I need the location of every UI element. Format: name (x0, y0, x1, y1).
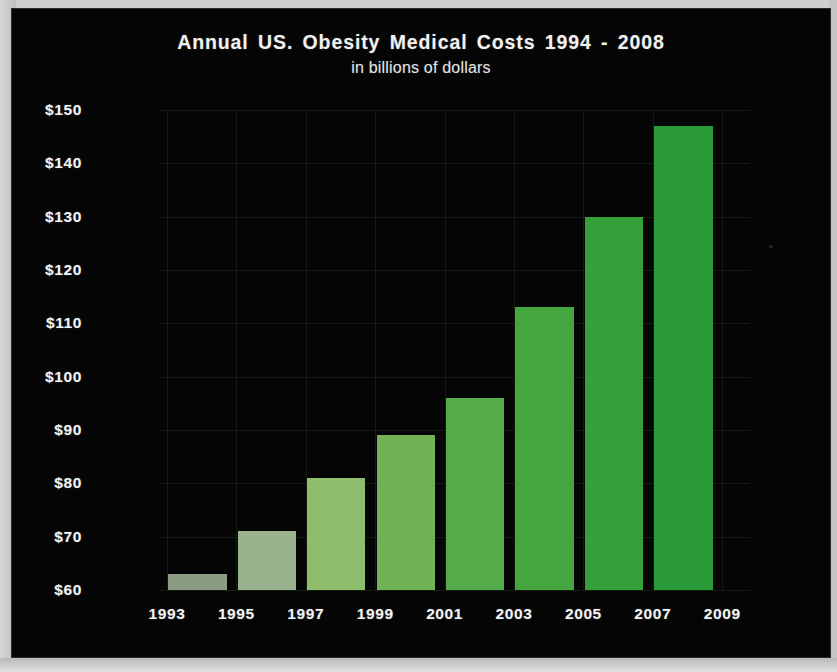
y-axis-tick-label: $150 (12, 101, 82, 119)
bar (238, 531, 296, 590)
plot-area (160, 110, 750, 590)
x-axis-tick-label: 1999 (357, 605, 394, 623)
y-axis-tick-label: $130 (12, 208, 82, 226)
scan-artifact-speck (769, 245, 773, 248)
x-axis: 199319951997199920012003200520072009 (160, 605, 750, 633)
x-axis-tick-label: 2001 (426, 605, 463, 623)
bar (585, 217, 643, 590)
gridline-horizontal (160, 590, 750, 591)
y-axis-tick-label: $70 (12, 528, 82, 546)
bar-chart-figure: Annual US. Obesity Medical Costs 1994 - … (12, 9, 830, 657)
x-axis-tick-label: 1993 (148, 605, 185, 623)
bar (515, 307, 573, 590)
bar (377, 435, 435, 590)
gridline-vertical (722, 110, 723, 590)
bar (446, 398, 504, 590)
chart-subtitle: in billions of dollars (12, 59, 830, 77)
y-axis-tick-label: $60 (12, 581, 82, 599)
bar (168, 574, 226, 590)
y-axis-tick-label: $80 (12, 474, 82, 492)
bar (307, 478, 365, 590)
scanned-page: Annual US. Obesity Medical Costs 1994 - … (0, 0, 837, 672)
scan-right-margin (829, 0, 837, 672)
x-axis-tick-label: 1995 (218, 605, 255, 623)
y-axis-tick-label: $90 (12, 421, 82, 439)
gridline-horizontal (160, 110, 750, 111)
y-axis-tick-label: $140 (12, 154, 82, 172)
y-axis-tick-label: $100 (12, 368, 82, 386)
x-axis-tick-label: 1997 (287, 605, 324, 623)
x-axis-tick-label: 2005 (565, 605, 602, 623)
scan-bottom-margin (0, 658, 837, 672)
y-axis-tick-label: $120 (12, 261, 82, 279)
gridline-vertical (167, 110, 168, 590)
x-axis-tick-label: 2009 (704, 605, 741, 623)
bar (654, 126, 712, 590)
x-axis-tick-label: 2003 (496, 605, 533, 623)
chart-title: Annual US. Obesity Medical Costs 1994 - … (12, 31, 830, 53)
gridline-vertical (236, 110, 237, 590)
y-axis-tick-label: $110 (12, 314, 82, 332)
title-block: Annual US. Obesity Medical Costs 1994 - … (12, 31, 830, 77)
x-axis-tick-label: 2007 (634, 605, 671, 623)
